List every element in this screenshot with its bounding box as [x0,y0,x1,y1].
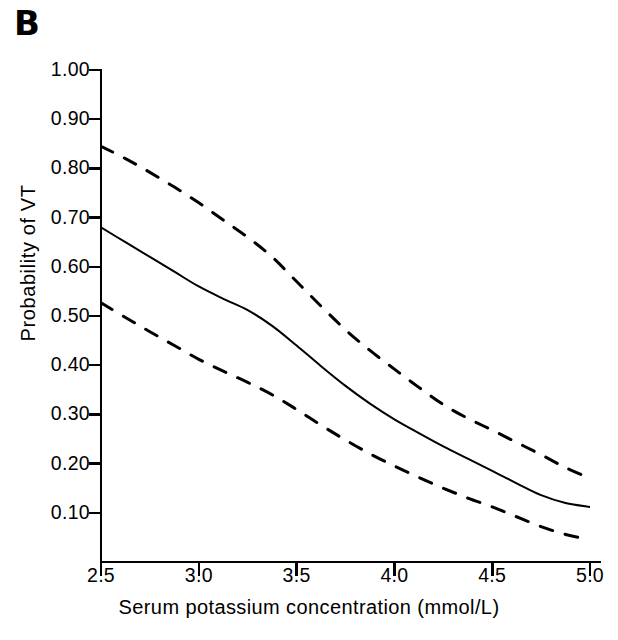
y-tick-label: 0.30 [4,404,90,424]
y-tick-label: 0.40 [4,355,90,375]
x-tick-label: 4.0 [380,566,408,586]
y-tick-label: 0.20 [4,454,90,474]
y-tick-label: 0.10 [4,503,90,523]
x-tick-labels: 2.53.03.54.04.55.0 [0,566,618,596]
figure-panel-b: B 1.000.900.800.700.600.500.400.300.200.… [0,0,618,640]
x-tick-label: 4.5 [478,566,506,586]
x-tick-label: 3.0 [185,566,213,586]
x-axis-title: Serum potassium concentration (mmol/L) [0,596,618,619]
x-tick-label: 3.5 [283,566,311,586]
y-tick-label: 0.70 [4,208,90,228]
curve-lower-confidence-limit [101,303,590,540]
y-tick-label: 0.90 [4,109,90,129]
y-tick-marks [89,70,101,513]
y-tick-labels: 1.000.900.800.700.600.500.400.300.200.10 [0,0,90,640]
curves [101,70,590,562]
curve-upper-confidence-limit [101,146,590,478]
plot-area [101,70,590,562]
x-tick-label: 5.0 [576,566,604,586]
y-tick-label: 0.60 [4,257,90,277]
y-tick-label: 0.50 [4,306,90,326]
x-tick-label: 2.5 [87,566,115,586]
curve-estimate [101,227,590,506]
y-tick-label: 0.80 [4,158,90,178]
y-tick-label: 1.00 [4,60,90,80]
